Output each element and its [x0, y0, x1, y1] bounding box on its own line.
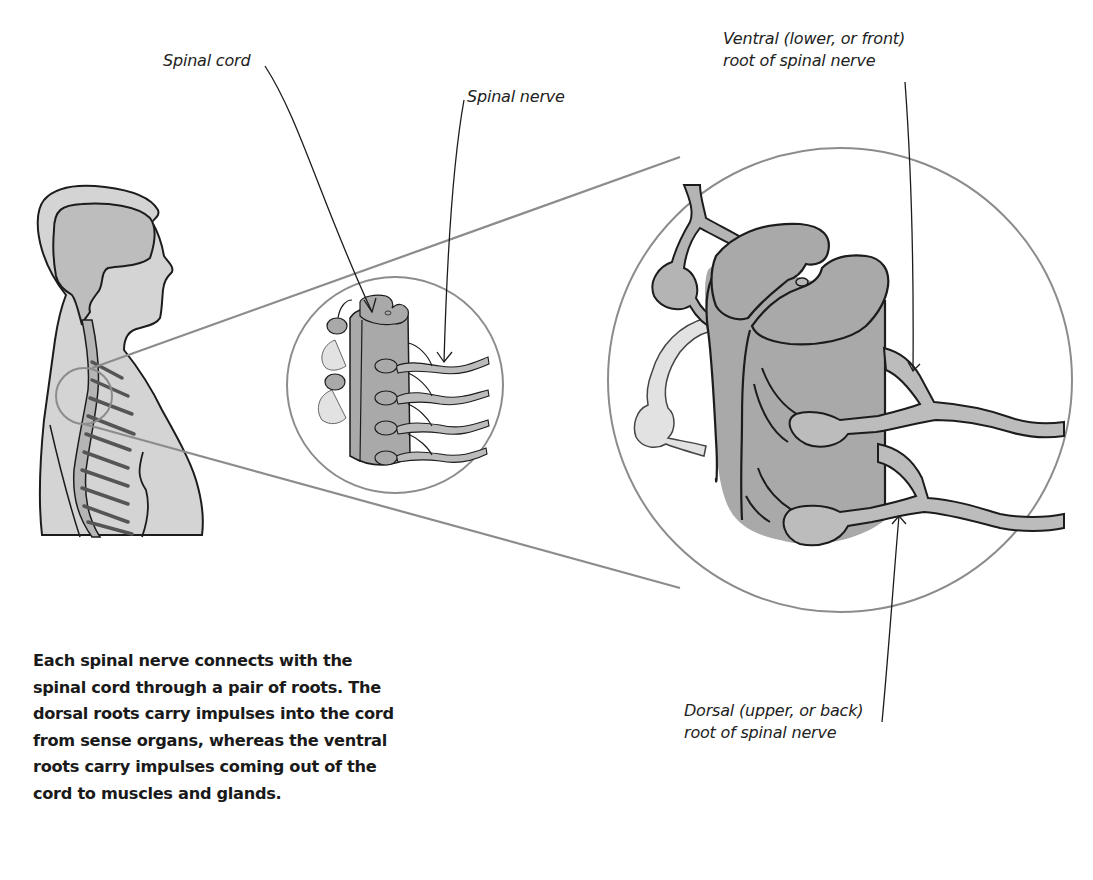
- label-spinal-nerve: Spinal nerve: [467, 86, 565, 108]
- label-ventral-root: Ventral (lower, or front) root of spinal…: [723, 28, 905, 72]
- caption-line: spinal cord through a pair of roots. The: [33, 675, 443, 702]
- caption-paragraph: Each spinal nerve connects with the spin…: [33, 648, 443, 807]
- caption-line: cord to muscles and glands.: [33, 781, 443, 808]
- label-dorsal-root-line1: Dorsal (upper, or back): [684, 700, 863, 722]
- caption-line: Each spinal nerve connects with the: [33, 648, 443, 675]
- spinal-cord-leader: [265, 66, 372, 312]
- medium-spinal-cord: [350, 307, 410, 465]
- label-ventral-root-line1: Ventral (lower, or front): [723, 28, 905, 50]
- caption-line: roots carry impulses coming out of the: [33, 754, 443, 781]
- caption-line: from sense organs, whereas the ventral: [33, 728, 443, 755]
- label-dorsal-root: Dorsal (upper, or back) root of spinal n…: [684, 700, 863, 744]
- label-ventral-root-line2: root of spinal nerve: [723, 50, 905, 72]
- caption-line: dorsal roots carry impulses into the cor…: [33, 701, 443, 728]
- large-zoom-circle: [608, 148, 1072, 612]
- label-spinal-cord: Spinal cord: [163, 50, 250, 72]
- central-canal: [796, 278, 808, 286]
- human-figure: [38, 186, 203, 537]
- medium-zoom-circle: [287, 277, 503, 493]
- label-dorsal-root-line2: root of spinal nerve: [684, 722, 863, 744]
